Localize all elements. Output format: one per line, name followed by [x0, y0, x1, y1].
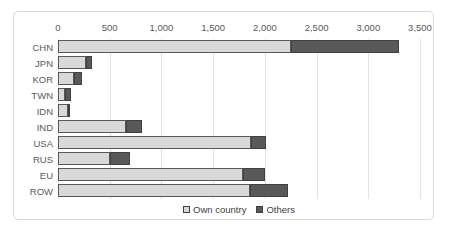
- stacked-bar-chart: 05001,0001,5002,0002,5003,0003,500 CHNJP…: [13, 11, 434, 220]
- category-label: JPN: [35, 58, 53, 69]
- bar-segment-own-country-idn: [58, 104, 68, 117]
- x-axis-tick-label: 2,500: [305, 22, 329, 33]
- bar-row-rus: RUS: [58, 151, 420, 167]
- bar-segment-others-eu: [243, 168, 265, 181]
- bar-row-usa: USA: [58, 135, 420, 151]
- bar-segment-own-country-twn: [58, 88, 65, 101]
- bar-segment-own-country-jpn: [58, 56, 86, 69]
- x-axis-tick-label: 2,000: [253, 22, 277, 33]
- category-label: ROW: [30, 186, 53, 197]
- x-axis-tick-label: 1,000: [150, 22, 174, 33]
- category-label: CHN: [32, 42, 53, 53]
- legend-label: Own country: [193, 204, 246, 215]
- bar-row-kor: KOR: [58, 71, 420, 87]
- chart-canvas: 05001,0001,5002,0002,5003,0003,500 CHNJP…: [0, 0, 451, 232]
- category-label: IDN: [37, 106, 53, 117]
- bar-rows: CHNJPNKORTWNIDNINDUSARUSEUROW: [58, 39, 420, 199]
- bar-segment-own-country-usa: [58, 136, 251, 149]
- plot-area: CHNJPNKORTWNIDNINDUSARUSEUROW: [58, 39, 420, 199]
- bar-segment-others-jpn: [86, 56, 92, 69]
- bar-row-jpn: JPN: [58, 55, 420, 71]
- bar-segment-others-kor: [74, 72, 82, 85]
- category-label: EU: [40, 170, 53, 181]
- legend-label: Others: [266, 204, 295, 215]
- bar-segment-own-country-rus: [58, 152, 110, 165]
- bar-segment-own-country-eu: [58, 168, 243, 181]
- bar-segment-own-country-kor: [58, 72, 74, 85]
- bar-row-twn: TWN: [58, 87, 420, 103]
- x-axis-tick-label: 0: [55, 22, 60, 33]
- bar-row-chn: CHN: [58, 39, 420, 55]
- legend: Own countryOthers: [58, 202, 420, 216]
- bar-segment-others-idn: [68, 104, 70, 117]
- x-axis-tick-label: 3,500: [408, 22, 432, 33]
- x-axis-tick-label: 3,000: [356, 22, 380, 33]
- category-label: USA: [33, 138, 53, 149]
- bar-segment-own-country-chn: [58, 40, 291, 53]
- bar-row-idn: IDN: [58, 103, 420, 119]
- x-axis-tick-label: 500: [102, 22, 118, 33]
- bar-row-eu: EU: [58, 167, 420, 183]
- bar-segment-own-country-ind: [58, 120, 126, 133]
- category-label: KOR: [32, 74, 53, 85]
- category-label: TWN: [31, 90, 53, 101]
- x-axis-tick-labels: 05001,0001,5002,0002,5003,0003,500: [58, 22, 420, 36]
- bar-segment-own-country-row: [58, 184, 250, 197]
- legend-item-others: Others: [256, 204, 295, 215]
- category-label: IND: [37, 122, 53, 133]
- legend-item-own-country: Own country: [183, 204, 246, 215]
- x-axis-tick-label: 1,500: [201, 22, 225, 33]
- legend-marker-icon: [256, 206, 263, 213]
- bar-segment-others-rus: [110, 152, 130, 165]
- bar-segment-others-row: [250, 184, 288, 197]
- bar-row-row: ROW: [58, 183, 420, 199]
- bar-segment-others-usa: [251, 136, 266, 149]
- category-label: RUS: [33, 154, 53, 165]
- bar-segment-others-twn: [65, 88, 71, 101]
- legend-marker-icon: [183, 206, 190, 213]
- bar-segment-others-chn: [291, 40, 400, 53]
- bar-row-ind: IND: [58, 119, 420, 135]
- bar-segment-others-ind: [126, 120, 142, 133]
- gridline: [420, 39, 421, 199]
